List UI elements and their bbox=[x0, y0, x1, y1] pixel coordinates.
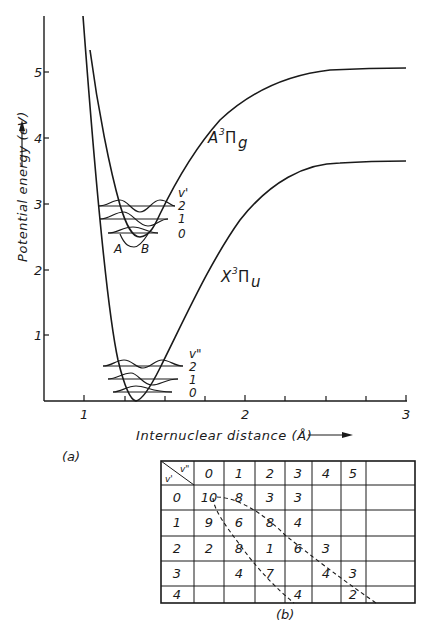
upper-vib-level-2: 2 bbox=[178, 199, 186, 213]
col-header-2: 2 bbox=[266, 466, 274, 481]
row-header-2: 2 bbox=[173, 541, 181, 556]
table-cell: 6 bbox=[235, 515, 243, 530]
svg-text:Π: Π bbox=[238, 268, 249, 286]
table-cell: 3 bbox=[322, 541, 330, 556]
curve-a3pi-g bbox=[90, 50, 406, 237]
x-tick-label-1: 1 bbox=[80, 407, 88, 422]
y-tick-label-3: 3 bbox=[34, 197, 42, 212]
potential-energy-plot: 1 2 3 4 5 1 2 3 Potential energy (eV) In… bbox=[15, 16, 410, 464]
table-border bbox=[161, 461, 415, 603]
table-cell: 3 bbox=[294, 490, 302, 505]
lower-vib-header: v" bbox=[189, 347, 202, 361]
col-header-3: 3 bbox=[294, 466, 302, 481]
condon-parabola-inner bbox=[213, 498, 294, 603]
lower-vib-level-0: 0 bbox=[189, 386, 197, 400]
svg-text:Π: Π bbox=[225, 129, 236, 147]
lower-vib-level-1: 1 bbox=[189, 373, 197, 387]
upper-vib-level-0: 0 bbox=[178, 227, 186, 241]
table-grid bbox=[161, 461, 415, 603]
label-x3pi-u: X 3 Π u bbox=[220, 266, 261, 291]
svg-text:X: X bbox=[220, 268, 232, 286]
panel-label-b: (b) bbox=[276, 607, 294, 622]
col-header-5: 5 bbox=[349, 466, 357, 481]
figure-canvas: 1 2 3 4 5 1 2 3 Potential energy (eV) In… bbox=[0, 0, 429, 626]
x-tick-label-2: 2 bbox=[241, 407, 249, 422]
franck-condon-table: v" v' 0 1 2 3 4 5 0 10 8 3 3 1 9 6 8 4 2… bbox=[161, 461, 415, 622]
y-tick-label-5: 5 bbox=[34, 65, 42, 80]
row-header-0: 0 bbox=[173, 490, 181, 505]
col-header-0: 0 bbox=[205, 466, 213, 481]
label-a3pi-g: A 3 Π g bbox=[207, 127, 248, 152]
table-cell: 8 bbox=[266, 515, 274, 530]
curve-x3pi-u bbox=[83, 16, 406, 401]
table-cell: 4 bbox=[294, 515, 302, 530]
table-cell: 7 bbox=[266, 566, 275, 581]
x-axis-arrow-icon bbox=[308, 432, 353, 438]
table-cell: 9 bbox=[205, 515, 213, 530]
upper-vib-level-1: 1 bbox=[178, 212, 186, 226]
row-header-4: 4 bbox=[173, 587, 181, 602]
table-cell: 2 bbox=[205, 541, 213, 556]
y-tick-label-1: 1 bbox=[34, 328, 42, 343]
table-cell: 10 bbox=[201, 490, 218, 505]
corner-col-label: v" bbox=[180, 464, 189, 474]
table-cell: 4 bbox=[294, 587, 302, 602]
col-header-4: 4 bbox=[322, 466, 330, 481]
svg-text:u: u bbox=[251, 273, 261, 291]
svg-text:A: A bbox=[207, 129, 218, 147]
table-cell: 3 bbox=[266, 490, 274, 505]
lower-vib-level-2: 2 bbox=[189, 360, 197, 374]
x-axis-title: Internuclear distance (Å) bbox=[136, 428, 312, 443]
table-cell: 1 bbox=[266, 541, 274, 556]
y-ticks bbox=[44, 72, 49, 335]
table-cell: 4 bbox=[322, 566, 330, 581]
lower-vib-levels bbox=[103, 360, 183, 392]
y-tick-label-2: 2 bbox=[34, 263, 42, 278]
turning-point-b: B bbox=[141, 242, 149, 256]
row-header-3: 3 bbox=[173, 566, 181, 581]
table-cell: 3 bbox=[349, 566, 357, 581]
row-header-1: 1 bbox=[173, 515, 181, 530]
upper-vib-header: v' bbox=[178, 186, 188, 200]
corner-row-label: v' bbox=[165, 474, 173, 484]
turning-point-a: A bbox=[113, 242, 122, 256]
svg-text:g: g bbox=[238, 134, 248, 152]
col-header-1: 1 bbox=[235, 466, 243, 481]
y-tick-label-4: 4 bbox=[34, 131, 42, 146]
panel-label-a: (a) bbox=[62, 449, 80, 464]
table-cell: 4 bbox=[235, 566, 243, 581]
x-tick-label-3: 3 bbox=[402, 407, 410, 422]
